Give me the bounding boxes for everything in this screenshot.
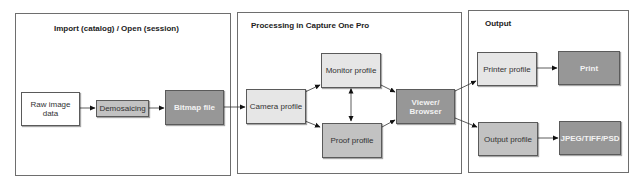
node-raw-image-data-label: Raw image data xyxy=(31,100,71,118)
node-demosaicing-label: Demosaicing xyxy=(99,104,145,113)
node-output-profile: Output profile xyxy=(478,122,538,156)
node-bitmap-file-label: Bitmap file xyxy=(174,103,215,112)
node-output-profile-label: Output profile xyxy=(484,135,532,144)
node-proof-profile: Proof profile xyxy=(322,123,382,158)
node-proof-profile-label: Proof profile xyxy=(330,136,373,145)
node-raw-image-data: Raw image data xyxy=(21,92,80,126)
node-printer-profile: Printer profile xyxy=(477,52,537,86)
node-jpeg-tiff-psd-label: JPEG/TIFF/PSD xyxy=(560,134,619,143)
node-print: Print xyxy=(558,51,620,85)
node-monitor-profile-label: Monitor profile xyxy=(326,66,377,75)
panel-processing-title: Processing in Capture One Pro xyxy=(251,21,369,30)
panel-import-title: Import (catalog) / Open (session) xyxy=(54,24,179,33)
panel-output-title: Output xyxy=(485,19,511,28)
node-bitmap-file: Bitmap file xyxy=(165,90,224,125)
node-demosaicing: Demosaicing xyxy=(96,100,149,117)
node-viewer-browser-label: Viewer/ Browser xyxy=(405,98,447,116)
node-print-label: Print xyxy=(580,64,598,73)
node-camera-profile-label: Camera profile xyxy=(250,102,302,111)
node-camera-profile: Camera profile xyxy=(246,89,306,124)
node-printer-profile-label: Printer profile xyxy=(483,65,531,74)
node-jpeg-tiff-psd: JPEG/TIFF/PSD xyxy=(559,121,621,155)
node-viewer-browser: Viewer/ Browser xyxy=(396,89,455,124)
node-monitor-profile: Monitor profile xyxy=(321,53,381,88)
